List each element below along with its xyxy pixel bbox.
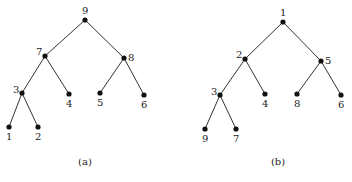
tree-edge bbox=[321, 61, 341, 95]
tree-node bbox=[318, 58, 323, 63]
tree-node bbox=[338, 92, 343, 97]
tree-edge bbox=[22, 93, 38, 127]
tree-caption: (a) bbox=[78, 156, 92, 167]
tree-b: 125348697(b) bbox=[202, 7, 344, 167]
tree-node bbox=[262, 91, 267, 96]
node-label: 1 bbox=[280, 7, 286, 18]
tree-edge bbox=[45, 20, 85, 56]
tree-edge bbox=[283, 22, 321, 61]
node-label: 6 bbox=[141, 99, 147, 110]
node-label: 7 bbox=[233, 133, 239, 144]
tree-node bbox=[121, 55, 126, 60]
tree-node bbox=[217, 92, 222, 97]
node-label: 2 bbox=[236, 49, 242, 60]
node-label: 5 bbox=[325, 55, 331, 66]
tree-edge bbox=[9, 93, 22, 127]
tree-edge bbox=[220, 59, 245, 95]
tree-edge bbox=[22, 56, 45, 93]
tree-node bbox=[202, 126, 207, 131]
tree-edge bbox=[205, 95, 220, 129]
node-label: 8 bbox=[128, 52, 134, 63]
tree-caption: (b) bbox=[271, 156, 285, 167]
node-label: 6 bbox=[338, 99, 344, 110]
tree-edge bbox=[220, 95, 236, 129]
tree-node bbox=[66, 91, 71, 96]
tree-node bbox=[6, 124, 11, 129]
tree-edge bbox=[85, 20, 124, 58]
node-label: 4 bbox=[66, 98, 72, 109]
tree-edge bbox=[245, 59, 265, 94]
tree-node bbox=[35, 124, 40, 129]
tree-node bbox=[141, 92, 146, 97]
tree-edge bbox=[45, 56, 69, 94]
node-label: 8 bbox=[294, 98, 300, 109]
tree-edge bbox=[100, 58, 124, 93]
tree-edge bbox=[297, 61, 321, 94]
tree-node bbox=[294, 91, 299, 96]
node-label: 3 bbox=[211, 86, 217, 97]
tree-a: 978345612(a) bbox=[6, 5, 147, 167]
tree-node bbox=[280, 19, 285, 24]
tree-node bbox=[97, 90, 102, 95]
node-label: 9 bbox=[202, 133, 208, 144]
node-label: 9 bbox=[82, 5, 88, 16]
tree-node bbox=[233, 126, 238, 131]
tree-edge bbox=[245, 22, 283, 59]
node-label: 4 bbox=[262, 98, 268, 109]
node-label: 3 bbox=[13, 84, 19, 95]
node-label: 5 bbox=[97, 97, 103, 108]
tree-node bbox=[19, 90, 24, 95]
tree-node bbox=[242, 56, 247, 61]
tree-edge bbox=[124, 58, 144, 95]
node-label: 1 bbox=[6, 131, 12, 142]
node-label: 7 bbox=[36, 46, 42, 57]
tree-node bbox=[82, 17, 87, 22]
tree-node bbox=[42, 53, 47, 58]
tree-diagram: 978345612(a)125348697(b) bbox=[0, 0, 352, 182]
node-label: 2 bbox=[35, 131, 41, 142]
